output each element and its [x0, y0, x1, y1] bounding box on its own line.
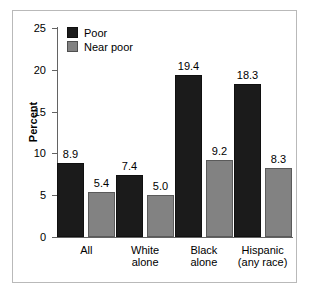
bar-near-poor [206, 160, 233, 237]
y-tick-mark [52, 237, 58, 238]
bar-value-label: 7.4 [110, 161, 149, 172]
poor-swatch-icon [67, 27, 78, 38]
legend-item-poor: Poor [67, 26, 133, 39]
y-tick-label: 0 [40, 232, 46, 243]
category-label: Hispanic (any race) [218, 244, 308, 268]
y-tick-label: 10 [34, 148, 46, 159]
x-axis-line [57, 237, 293, 238]
bar-chart-figure: Percent 0510152025 8.95.47.45.019.49.218… [0, 0, 310, 293]
bar-near-poor [147, 195, 174, 237]
bar-near-poor [265, 168, 292, 237]
chart-legend: Poor Near poor [67, 26, 133, 54]
y-tick-mark [52, 28, 58, 29]
legend-label-poor: Poor [84, 27, 107, 39]
y-tick-label: 25 [34, 23, 46, 34]
bar-value-label: 18.3 [228, 70, 267, 81]
bar-poor [175, 75, 202, 237]
legend-label-near-poor: Near poor [84, 41, 133, 53]
y-tick-label: 15 [34, 107, 46, 118]
bar-near-poor [88, 192, 115, 237]
bar-value-label: 19.4 [169, 61, 208, 72]
bar-poor [234, 84, 261, 237]
bar-value-label: 8.9 [51, 149, 90, 160]
near-poor-swatch-icon [67, 41, 78, 52]
bar-poor [116, 175, 143, 237]
bar-value-label: 8.3 [259, 154, 298, 165]
y-tick-mark [52, 70, 58, 71]
legend-item-near-poor: Near poor [67, 40, 133, 53]
y-tick-label: 5 [40, 190, 46, 201]
y-tick-mark [52, 112, 58, 113]
y-tick-label: 20 [34, 65, 46, 76]
bar-poor [57, 163, 84, 237]
